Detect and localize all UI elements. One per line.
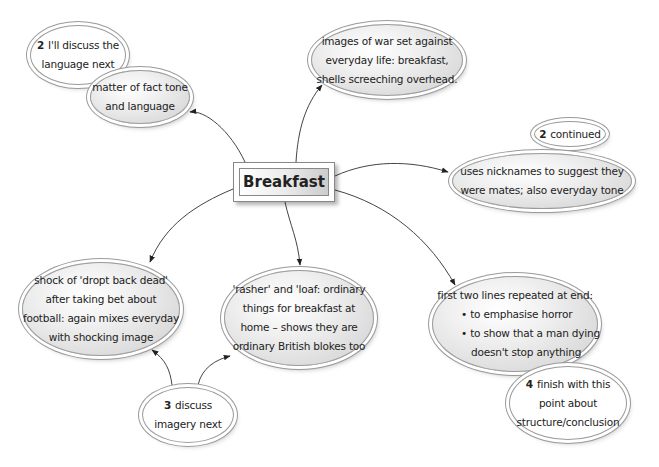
note-continued[interactable]: 2continued <box>534 121 606 147</box>
node-war-images[interactable]: images of war set against everyday life:… <box>311 24 463 96</box>
note-number: 4 <box>526 378 533 390</box>
link-to-nicknames <box>335 163 448 176</box>
note-number: 3 <box>164 399 171 411</box>
link-to-war-images <box>296 85 322 162</box>
central-topic-label: Breakfast <box>239 168 329 196</box>
bullet-item: • to emphasise horror <box>433 305 572 324</box>
node-repeated[interactable]: first two lines repeated at end: • to em… <box>432 276 598 372</box>
link-imagery-to-shock <box>152 350 172 385</box>
note-number: 2 <box>539 128 546 140</box>
bullet-item: • to show that a man dying <box>433 324 600 343</box>
link-imagery-to-rasher <box>198 356 230 385</box>
node-shock[interactable]: shock of 'dropt back dead' after taking … <box>22 262 180 356</box>
note-number: 2 <box>37 39 44 51</box>
link-to-tone <box>190 112 245 162</box>
node-rasher[interactable]: 'rasher' and 'loaf: ordinary things for … <box>224 270 374 366</box>
central-topic[interactable]: Breakfast <box>233 162 335 202</box>
node-tone[interactable]: matter of fact tone and language <box>90 70 190 124</box>
link-to-rasher <box>285 202 300 265</box>
node-nicknames[interactable]: uses nicknames to suggest they were mate… <box>452 153 632 209</box>
link-to-repeated <box>335 190 455 285</box>
note-imagery-next[interactable]: 3discuss imagery next <box>142 387 234 443</box>
link-to-shock <box>150 189 233 262</box>
note-finish[interactable]: 4finish with this point about structure/… <box>509 366 627 440</box>
